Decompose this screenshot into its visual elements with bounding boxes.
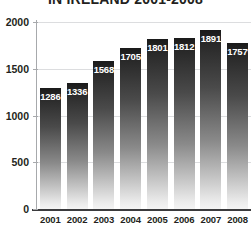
y-tick-label: 0	[23, 203, 29, 215]
bar-value-label: 1812	[174, 41, 195, 52]
bar[interactable]: 1568	[93, 61, 114, 209]
y-tick-label: 1500	[6, 63, 29, 75]
bar-slot: 1757*	[224, 20, 251, 209]
x-tick-label: 2005	[144, 214, 171, 225]
y-axis-tick	[33, 22, 38, 23]
y-axis-tick	[33, 116, 38, 117]
bar-slot: 1812	[171, 20, 198, 209]
bar-slot: 1336	[64, 20, 91, 209]
bar[interactable]: 1801	[147, 39, 168, 209]
y-axis-tick	[33, 209, 38, 210]
bar[interactable]: 1705	[120, 48, 141, 209]
y-axis-tick	[33, 69, 38, 70]
bar-series: 1286 1336 1568 1705 1801 1812	[37, 20, 251, 209]
bar-chart: IN IRELAND 2001-2008 2000 1500 1000 500 …	[0, 0, 251, 237]
bar-slot: 1286	[37, 20, 64, 209]
bar-slot: 1801	[144, 20, 171, 209]
x-axis: 2001 2002 2003 2004 2005 2006 2007 2008	[37, 214, 251, 225]
bar-value-label: 1336	[67, 86, 88, 97]
x-tick-label: 2008	[224, 214, 251, 225]
bar-value-label: 1757*	[227, 46, 248, 57]
y-tick-label: 2000	[6, 16, 29, 28]
x-tick-label: 2007	[198, 214, 225, 225]
bar-value-label: 1801	[147, 42, 168, 53]
x-tick-label: 2004	[117, 214, 144, 225]
bar-slot: 1568	[91, 20, 118, 209]
bar-slot: 1705	[117, 20, 144, 209]
x-tick-label: 2002	[64, 214, 91, 225]
x-tick-label: 2006	[171, 214, 198, 225]
bar-value-label: 1705	[120, 51, 141, 62]
bar[interactable]: 1336	[67, 83, 88, 209]
y-axis-tick	[33, 162, 38, 163]
x-axis-baseline	[32, 209, 251, 211]
bar[interactable]: 1286	[40, 88, 61, 210]
bar[interactable]: 1812	[174, 38, 195, 209]
x-tick-label: 2001	[37, 214, 64, 225]
bar-value-label: 1286	[40, 91, 61, 102]
y-axis: 2000 1500 1000 500 0	[0, 0, 33, 237]
bar-slot: 1891	[198, 20, 225, 209]
bar[interactable]: 1757*	[227, 43, 248, 209]
bar[interactable]: 1891	[200, 30, 221, 209]
chart-title: IN IRELAND 2001-2008	[0, 0, 251, 7]
y-tick-label: 500	[11, 156, 29, 168]
bar-value-label: 1568	[93, 64, 114, 75]
x-tick-label: 2003	[91, 214, 118, 225]
y-tick-label: 1000	[6, 110, 29, 122]
bar-value-label: 1891	[200, 33, 221, 44]
